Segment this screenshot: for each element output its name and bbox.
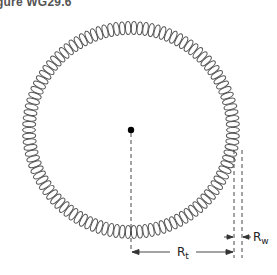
rw-label: Rw [253,230,269,246]
toroid-diagram: Rt Rw [0,0,277,275]
rt-label: Rt [177,245,189,261]
rw-dimension-arrows [224,235,251,239]
center-dot [128,127,134,133]
